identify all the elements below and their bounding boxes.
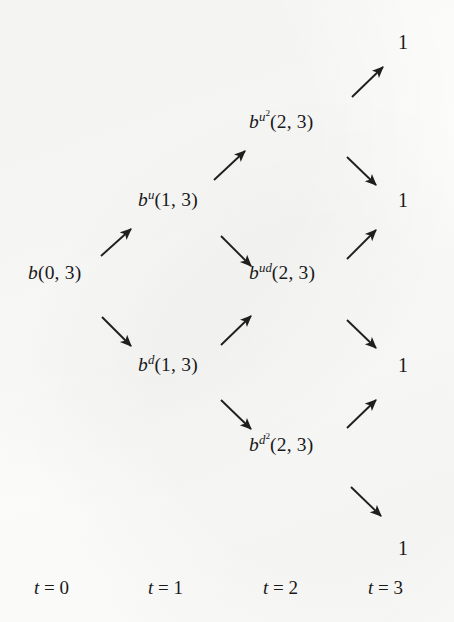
node-base-symbol: b: [249, 262, 259, 283]
time-axis-label-1: t = 1: [148, 578, 183, 597]
time-step-number: 3: [394, 577, 404, 598]
node-base-symbol: b: [28, 262, 38, 283]
time-step-number: 1: [174, 577, 184, 598]
terminal-payoff-t-uud: 1: [398, 190, 408, 210]
lattice-edges: [0, 0, 454, 622]
node-arguments: (2, 3): [272, 262, 315, 283]
node-superscript: u2: [259, 110, 270, 124]
node-label-bd: bd(1, 3): [138, 355, 198, 375]
equals-sign: =: [39, 577, 59, 598]
node-arguments: (1, 3): [154, 189, 197, 210]
lattice-arrow-up: [101, 229, 131, 256]
terminal-payoff-t-uuu: 1: [398, 32, 408, 52]
node-label-bu2: bu2(2, 3): [249, 112, 313, 132]
node-arguments: (2, 3): [270, 111, 313, 132]
node-base-symbol: b: [138, 354, 148, 375]
lattice-arrow-up: [347, 400, 376, 428]
lattice-arrow-down: [102, 317, 131, 346]
edge-layer: [101, 67, 383, 516]
lattice-arrow-up: [221, 316, 251, 345]
lattice-arrow-up: [214, 151, 245, 180]
time-axis-label-2: t = 2: [263, 578, 298, 597]
lattice-arrow-down: [221, 236, 251, 266]
node-superscript: ud: [259, 261, 272, 275]
time-step-number: 2: [289, 577, 299, 598]
equals-sign: =: [153, 577, 173, 598]
node-superscript: d2: [259, 433, 270, 447]
equals-sign: =: [268, 577, 288, 598]
time-axis-label-0: t = 0: [34, 578, 69, 597]
node-arguments: (0, 3): [38, 262, 81, 283]
lattice-arrow-up: [347, 230, 376, 259]
node-label-b: b(0, 3): [28, 263, 81, 283]
node-arguments: (1, 3): [154, 354, 197, 375]
lattice-arrow-down: [221, 400, 251, 429]
node-label-bu: bu(1, 3): [138, 190, 198, 210]
lattice-arrow-down: [347, 157, 376, 185]
lattice-arrow-down: [347, 320, 376, 348]
node-superscript-text: ud: [259, 261, 272, 275]
equals-sign: =: [373, 577, 393, 598]
node-arguments: (2, 3): [270, 434, 313, 455]
node-base-symbol: b: [249, 111, 259, 132]
terminal-payoff-t-udd: 1: [398, 355, 408, 375]
node-label-bd2: bd2(2, 3): [249, 435, 313, 455]
paper-texture: [0, 0, 454, 622]
terminal-payoff-t-ddd: 1: [398, 538, 408, 558]
node-label-bud: bud(2, 3): [249, 263, 315, 283]
node-base-symbol: b: [249, 434, 259, 455]
figure-canvas: b(0, 3)bu(1, 3)bd(1, 3)bu2(2, 3)bud(2, 3…: [0, 0, 454, 622]
lattice-arrow-up: [352, 67, 383, 97]
time-step-number: 0: [60, 577, 70, 598]
node-base-symbol: b: [138, 189, 148, 210]
lattice-arrow-down: [351, 487, 381, 516]
time-axis-label-3: t = 3: [368, 578, 403, 597]
